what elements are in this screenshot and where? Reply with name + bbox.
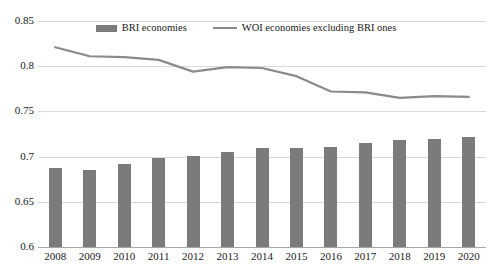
- y-axis-tick-label: 0.7: [0, 151, 34, 162]
- y-axis-tick-label: 0.8: [0, 60, 34, 71]
- x-axis-tick-label: 2009: [72, 250, 106, 263]
- plot-area: [38, 21, 486, 247]
- y-axis-tick-label: 0.6: [0, 241, 34, 252]
- line-series-woi-economies: [38, 21, 486, 247]
- x-axis-tick-label: 2008: [38, 250, 72, 263]
- chart-container: BRI economies WOI economies excluding BR…: [0, 0, 492, 276]
- x-axis-tick-label: 2020: [452, 250, 486, 263]
- x-axis-labels: 2008200920102011201220132014201520162017…: [38, 250, 486, 268]
- x-axis-tick-label: 2018: [383, 250, 417, 263]
- x-axis-tick-label: 2010: [107, 250, 141, 263]
- x-axis-tick-label: 2012: [176, 250, 210, 263]
- x-axis-tick-label: 2011: [141, 250, 175, 263]
- x-axis-tick-label: 2015: [279, 250, 313, 263]
- x-axis-tick-label: 2014: [245, 250, 279, 263]
- x-axis-tick-label: 2013: [210, 250, 244, 263]
- x-axis-line: [38, 247, 486, 248]
- y-axis-tick-label: 0.75: [0, 105, 34, 116]
- x-axis-tick-label: 2016: [314, 250, 348, 263]
- y-axis-labels: 0.60.650.70.750.80.85: [0, 21, 34, 247]
- x-axis-tick-label: 2017: [348, 250, 382, 263]
- y-axis-tick-label: 0.85: [0, 15, 34, 26]
- y-axis-tick-label: 0.65: [0, 196, 34, 207]
- x-axis-tick-label: 2019: [417, 250, 451, 263]
- line-path: [55, 47, 469, 98]
